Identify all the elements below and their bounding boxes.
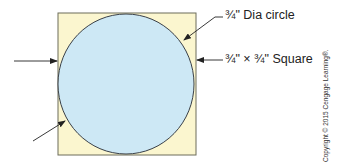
diagram-canvas [0,0,341,167]
copyright-notice: Copyright © 2015 Cengage Learning®. [322,49,329,162]
circle-label: ¾" Dia circle [225,8,295,22]
circle-shape [58,14,194,154]
square-label: ¾" × ¾" Square [225,52,313,66]
